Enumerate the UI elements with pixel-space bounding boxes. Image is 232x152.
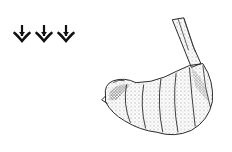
icon-row (13, 24, 75, 44)
shrimp-illustration (96, 14, 220, 138)
trident-arrow-icon (57, 24, 75, 44)
trident-arrow-icon (13, 24, 31, 44)
trident-arrow-icon (35, 24, 53, 44)
